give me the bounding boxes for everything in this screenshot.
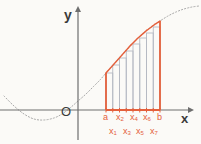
inscribed-rectangle	[113, 65, 120, 110]
partition-label-x2: x2	[116, 113, 124, 122]
x-axis-label: x	[181, 112, 188, 125]
inscribed-rectangle	[106, 73, 113, 110]
y-axis-arrowhead	[75, 6, 81, 12]
figure-canvas	[0, 0, 201, 144]
origin-label: O	[61, 105, 71, 118]
inscribed-rectangles-group	[106, 27, 160, 110]
partition-label-a: a	[103, 113, 108, 122]
inscribed-rectangle	[126, 51, 133, 110]
inscribed-rectangle	[153, 27, 160, 110]
curve-dotted-stroke	[4, 6, 199, 120]
inscribed-rectangle	[140, 38, 147, 110]
axes-group	[0, 6, 194, 140]
y-axis-label: y	[64, 8, 72, 22]
riemann-sum-figure: y x O ax2x4x6bx1x3x5x7	[0, 0, 201, 144]
partition-label-x1: x1	[109, 127, 117, 136]
x-axis-arrowhead	[188, 107, 194, 113]
partition-label-x4: x4	[130, 113, 138, 122]
partition-label-x3: x3	[123, 127, 131, 136]
inscribed-rectangle	[147, 33, 154, 110]
inscribed-rectangle	[133, 44, 140, 110]
partition-label-x6: x6	[143, 113, 151, 122]
inscribed-rectangle	[120, 58, 127, 110]
partition-label-x5: x5	[136, 127, 144, 136]
partition-label-b: b	[157, 113, 162, 122]
background-curve-dotted	[4, 6, 199, 120]
partition-label-x7: x7	[150, 127, 158, 136]
